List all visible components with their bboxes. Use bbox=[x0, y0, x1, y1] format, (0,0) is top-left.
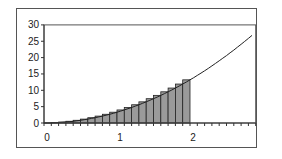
bar bbox=[168, 88, 175, 123]
y-tick-label: 10 bbox=[28, 85, 40, 96]
bar bbox=[161, 92, 168, 123]
x-tick-label: 0 bbox=[44, 132, 50, 143]
bar bbox=[154, 95, 161, 123]
y-tick-label: 15 bbox=[28, 68, 40, 79]
y-tick-label: 5 bbox=[33, 101, 39, 112]
bar bbox=[183, 80, 190, 123]
y-tick-label: 25 bbox=[28, 36, 40, 47]
y-tick-label: 0 bbox=[33, 118, 39, 129]
bar bbox=[175, 84, 182, 123]
y-tick-label: 20 bbox=[28, 52, 40, 63]
bars bbox=[44, 80, 190, 123]
riemann-sum-chart: 012051015202530 bbox=[0, 0, 282, 159]
x-tick-label: 2 bbox=[190, 132, 196, 143]
bar bbox=[146, 99, 153, 123]
x-tick-label: 1 bbox=[117, 132, 123, 143]
bar bbox=[139, 102, 146, 123]
axes: 012051015202530 bbox=[28, 19, 256, 143]
y-tick-label: 30 bbox=[28, 19, 40, 30]
